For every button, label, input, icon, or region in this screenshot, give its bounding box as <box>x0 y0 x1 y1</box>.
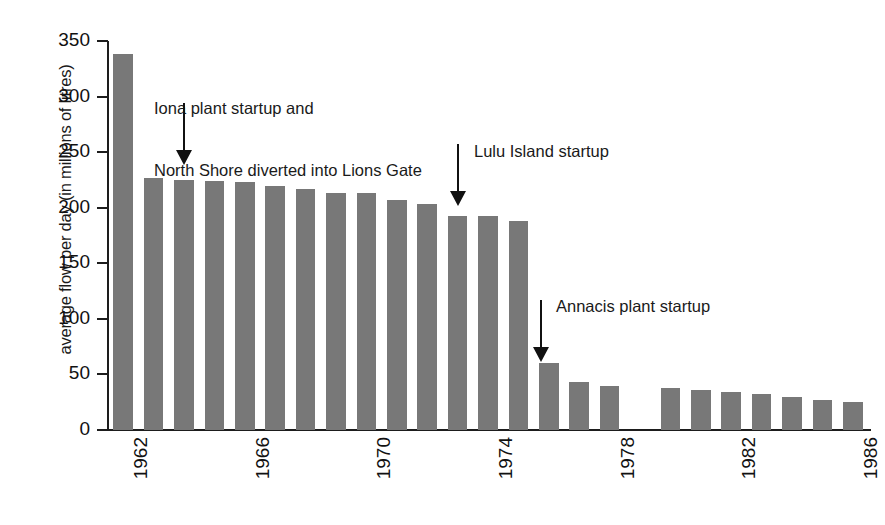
bar-rect <box>296 189 316 430</box>
bar-rect <box>539 363 559 430</box>
y-tick-250: 250 <box>97 151 108 153</box>
bar-1975 <box>509 41 529 430</box>
bar-1978 <box>600 41 620 430</box>
bar-rect <box>478 216 498 431</box>
bar-rect <box>569 382 589 430</box>
bar-rect <box>721 392 741 430</box>
bar-1976 <box>539 41 559 430</box>
bar-1984 <box>782 41 802 430</box>
bar-1982 <box>721 41 741 430</box>
y-tick-300: 300 <box>97 96 108 98</box>
bar-1981 <box>691 41 711 430</box>
bar-rect <box>357 193 377 430</box>
bar-1973 <box>448 41 468 430</box>
x-tick-label-1962: 1962 <box>131 437 150 479</box>
y-tick-label-100: 100 <box>58 308 90 327</box>
bar-1986 <box>843 41 863 430</box>
bar-rect <box>265 186 285 431</box>
bar-1980 <box>661 41 681 430</box>
bar-rect <box>326 193 346 430</box>
bar-rect <box>509 221 529 430</box>
y-tick-label-350: 350 <box>58 30 90 49</box>
bar-rect <box>600 386 620 430</box>
annotation-iona-line1: Iona plant startup and <box>154 98 422 119</box>
y-tick-label-0: 0 <box>79 419 90 438</box>
bar-1977 <box>569 41 589 430</box>
x-axis-ticks: 1962196619701974197819821986 <box>108 433 868 523</box>
y-tick-label-150: 150 <box>58 252 90 271</box>
bar-rect <box>813 400 833 430</box>
x-tick-label-1970: 1970 <box>374 437 393 479</box>
annotation-annacis-arrow-icon <box>533 300 549 362</box>
bar-rect <box>387 200 407 430</box>
bar-rect <box>113 54 133 430</box>
x-tick-label-1978: 1978 <box>618 437 637 479</box>
annotation-iona-arrow-icon <box>176 103 192 165</box>
annotation-lulu-arrow-icon <box>450 144 466 206</box>
bar-rect <box>417 204 437 430</box>
x-tick-label-1966: 1966 <box>253 437 272 479</box>
bar-rect <box>691 390 711 430</box>
bar-rect <box>843 402 863 430</box>
x-tick-label-1986: 1986 <box>861 437 880 479</box>
y-tick-0: 0 <box>97 429 108 431</box>
bar-rect <box>752 394 772 430</box>
y-tick-label-250: 250 <box>58 141 90 160</box>
bar-rect <box>661 388 681 430</box>
y-tick-150: 150 <box>97 262 108 264</box>
y-tick-100: 100 <box>97 318 108 320</box>
y-tick-label-50: 50 <box>69 364 90 383</box>
bar-1985 <box>813 41 833 430</box>
bar-1983 <box>752 41 772 430</box>
annotation-lulu: Lulu Island startup <box>474 141 609 162</box>
y-tick-label-200: 200 <box>58 197 90 216</box>
bar-rect <box>448 216 468 431</box>
annotation-annacis: Annacis plant startup <box>556 296 710 317</box>
x-tick-label-1982: 1982 <box>739 437 758 479</box>
y-tick-50: 50 <box>97 373 108 375</box>
y-tick-label-300: 300 <box>58 86 90 105</box>
bar-1974 <box>478 41 498 430</box>
x-tick-label-1974: 1974 <box>496 437 515 479</box>
bar-1962 <box>113 41 133 430</box>
annotation-iona: Iona plant startup and North Shore diver… <box>154 57 422 222</box>
bar-chart: average flow per day (in millions of lit… <box>0 0 885 525</box>
y-tick-350: 350 <box>97 40 108 42</box>
annotation-iona-line2: North Shore diverted into Lions Gate <box>154 160 422 181</box>
bar-rect <box>782 397 802 430</box>
y-tick-200: 200 <box>97 207 108 209</box>
